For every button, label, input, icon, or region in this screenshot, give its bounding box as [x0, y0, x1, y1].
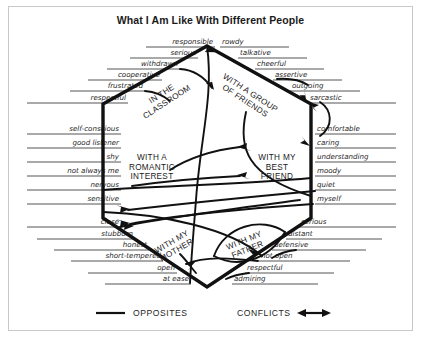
trait-label-right: rowdy — [222, 37, 245, 46]
social-context-hexagon-diagram: responsibleseriouswithdrawncooperativefr… — [0, 0, 421, 339]
region-label-line: FRIEND — [261, 172, 293, 181]
trait-label-right: comfortable — [317, 124, 361, 133]
trait-label-right: cheerful — [257, 59, 286, 68]
legend-opposites-label: OPPOSITES — [133, 308, 188, 318]
trait-label-right: caring — [317, 138, 340, 147]
region-label-line: WITH MY — [258, 153, 296, 162]
trait-label-right: respectful — [247, 263, 283, 272]
trait-label-left: self-conscious — [69, 124, 119, 133]
trait-label-left: good listener — [72, 138, 120, 147]
legend: OPPOSITES CONFLICTS — [96, 308, 331, 318]
region-label-mother: WITH MYMOTHER — [153, 228, 195, 263]
trait-label-right: quiet — [317, 180, 335, 189]
region-label-line: WITH A — [137, 153, 167, 162]
region-label-line: INTEREST — [131, 172, 174, 181]
region-label-bestfriend: WITH MYBESTFRIEND — [258, 153, 296, 181]
trait-label-right: moody — [317, 166, 342, 175]
trait-label-left: not always me — [67, 166, 119, 175]
diagram-page: What I Am Like With Different People res… — [0, 0, 421, 339]
trait-label-right: talkative — [240, 48, 272, 57]
legend-arrow-left-icon — [297, 309, 306, 317]
legend-arrow-right-icon — [322, 309, 331, 317]
region-labels: IN THECLASSROOMWITH A GROUPOF FRIENDSWIT… — [129, 72, 296, 264]
region-label-line: BEST — [266, 163, 289, 172]
legend-conflicts-label: CONFLICTS — [237, 308, 291, 318]
trait-label-left: shy — [107, 152, 120, 161]
trait-label-right: sarcastic — [310, 93, 342, 102]
region-label-line: ROMANTIC — [129, 163, 175, 172]
trait-label-right: assertive — [275, 70, 308, 79]
trait-label-right: myself — [317, 194, 342, 203]
region-label-romantic: WITH AROMANTICINTEREST — [129, 153, 175, 181]
trait-label-right: understanding — [317, 152, 369, 161]
trait-label-left: nervous — [90, 180, 119, 189]
trait-label-left: at ease — [163, 274, 190, 283]
